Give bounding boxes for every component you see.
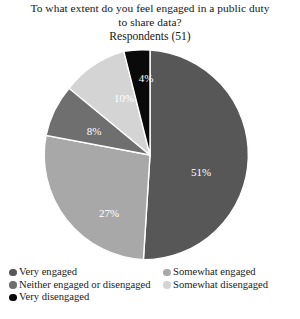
pie-chart-figure: To what extent do you feel engaged in a …	[0, 0, 300, 319]
chart-legend: Very engaged Neither engaged or disengag…	[0, 266, 300, 316]
pie-label-somewhat-engaged: 27%	[99, 207, 119, 219]
pie-slice-somewhat-engaged	[44, 135, 150, 259]
legend-column-left: Very engaged Neither engaged or disengag…	[9, 266, 161, 304]
legend-item-very-disengaged[interactable]: Very disengaged	[9, 291, 161, 304]
chart-title-line-2: to share data?	[118, 16, 181, 28]
legend-label: Very engaged	[19, 266, 77, 279]
legend-label: Somewhat engaged	[173, 266, 256, 279]
pie-slice-very-engaged	[143, 50, 248, 260]
legend-column-right: Somewhat engaged Somewhat disengaged	[163, 266, 299, 291]
legend-swatch-circle-icon	[163, 281, 171, 289]
legend-swatch-circle-icon	[9, 269, 17, 277]
pie-label-very-disengaged: 4%	[139, 72, 154, 84]
pie-label-somewhat-disengaged: 10%	[114, 92, 134, 104]
pie-label-neither-engaged-or-disengaged: 8%	[87, 125, 102, 137]
chart-title: To what extent do you feel engaged in a …	[0, 2, 300, 29]
legend-item-somewhat-engaged[interactable]: Somewhat engaged	[163, 266, 299, 279]
chart-subtitle: Respondents (51)	[0, 30, 300, 44]
pie-svg: 51% 27% 8% 10% 4%	[38, 48, 262, 262]
legend-swatch-circle-icon	[163, 269, 171, 277]
legend-label: Somewhat disengaged	[173, 279, 268, 292]
chart-title-line-1: To what extent do you feel engaged in a …	[31, 2, 270, 14]
pie-label-very-engaged: 51%	[191, 166, 211, 178]
legend-swatch-circle-icon	[9, 294, 17, 302]
legend-label: Neither engaged or disengaged	[19, 279, 151, 292]
legend-swatch-circle-icon	[9, 281, 17, 289]
title-block: To what extent do you feel engaged in a …	[0, 0, 300, 44]
legend-item-neither-engaged-or-disengaged[interactable]: Neither engaged or disengaged	[9, 279, 161, 292]
pie-plot-area: 51% 27% 8% 10% 4%	[0, 48, 300, 262]
legend-label: Very disengaged	[19, 291, 89, 304]
legend-item-very-engaged[interactable]: Very engaged	[9, 266, 161, 279]
legend-item-somewhat-disengaged[interactable]: Somewhat disengaged	[163, 279, 299, 292]
